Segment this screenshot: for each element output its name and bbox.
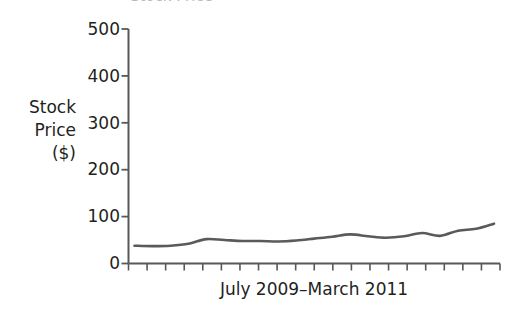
plot-area xyxy=(0,0,505,316)
x-tick-marks xyxy=(129,264,501,271)
stock-price-line xyxy=(135,224,495,247)
chart-figure: Stock Price Stock Price ($) 500 400 300 … xyxy=(0,0,505,316)
y-tick-marks xyxy=(122,29,129,264)
x-axis-label: July 2009–March 2011 xyxy=(128,279,500,299)
